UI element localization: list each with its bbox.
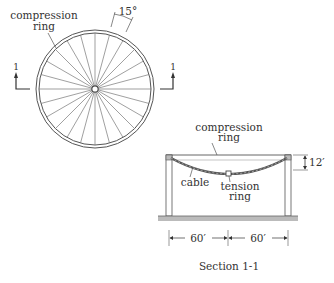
- plan-compression-label-2: ring: [33, 20, 55, 32]
- section-marker-left: 1: [13, 62, 30, 89]
- cable-spoke: [97, 92, 123, 137]
- angle-ext-line-2: [126, 17, 133, 32]
- cable-spoke: [81, 92, 95, 143]
- ground: [158, 216, 298, 221]
- cable-spoke: [97, 41, 123, 86]
- cable-spoke: [67, 92, 93, 137]
- plan-view: compression ring 15° 1 1: [10, 5, 176, 148]
- tension-ring-section: [226, 171, 231, 176]
- cable-spoke: [55, 49, 92, 86]
- cable-spoke: [81, 35, 95, 86]
- cable-spoke: [96, 92, 110, 143]
- section-compression-leader: [212, 143, 217, 155]
- section-view: compression ring cable tension ring 12′: [158, 121, 325, 272]
- svg-text:1: 1: [170, 62, 176, 72]
- svg-text:1: 1: [13, 62, 19, 72]
- diagram-canvas: compression ring 15° 1 1 compression rin…: [0, 0, 334, 283]
- tension-ring-plan: [92, 86, 98, 92]
- section-caption: Section 1-1: [199, 260, 259, 272]
- span-right-label: 60′: [250, 232, 266, 244]
- cable-spoke: [47, 61, 92, 87]
- cable-label: cable: [181, 176, 209, 188]
- cable-spoke: [96, 35, 110, 86]
- plan-compression-leader: [48, 33, 56, 48]
- cable-spoke: [98, 90, 149, 104]
- right-column: [285, 155, 291, 216]
- span-left-label: 60′: [190, 232, 206, 244]
- cable-spoke: [67, 41, 93, 86]
- cable-spoke: [98, 75, 149, 89]
- section-compression-label-2: ring: [218, 131, 240, 143]
- section-marker-right: 1: [160, 62, 176, 89]
- cable-spoke: [47, 91, 92, 117]
- tension-label-2: ring: [229, 190, 251, 202]
- cable-spoke: [97, 49, 134, 86]
- cable-spoke: [98, 61, 143, 87]
- cable-spoke: [55, 91, 92, 128]
- cable-spoke: [97, 91, 134, 128]
- cable-spoke: [41, 75, 92, 89]
- angle-label: 15°: [119, 5, 138, 17]
- left-column: [166, 155, 172, 216]
- cable-spoke: [41, 90, 92, 104]
- cable-spoke: [98, 91, 143, 117]
- height-dim-label: 12′: [309, 156, 325, 168]
